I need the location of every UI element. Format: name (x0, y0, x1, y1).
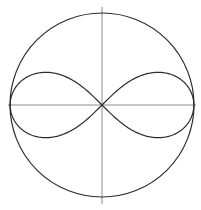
figure-container (0, 0, 201, 210)
lemniscate-figure (0, 0, 201, 210)
